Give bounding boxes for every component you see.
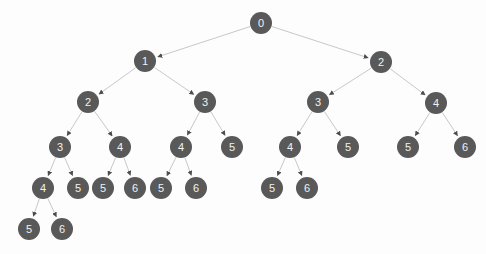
- tree-node[interactable]: 5: [18, 218, 40, 240]
- tree-node-label: 6: [462, 141, 468, 152]
- tree-node-label: 3: [202, 96, 208, 107]
- tree-node-label: 5: [100, 182, 106, 193]
- tree-node-label: 0: [258, 17, 264, 28]
- tree-node-label: 6: [304, 182, 310, 193]
- tree-node-label: 4: [287, 141, 293, 152]
- tree-node[interactable]: 3: [49, 136, 71, 158]
- tree-node[interactable]: 4: [32, 177, 54, 199]
- tree-node-label: 3: [315, 96, 321, 107]
- tree-node[interactable]: 3: [194, 91, 216, 113]
- tree-node[interactable]: 5: [221, 136, 243, 158]
- tree-node[interactable]: 4: [279, 136, 301, 158]
- tree-diagram-canvas: 0122334344545564556565656: [0, 0, 486, 254]
- tree-node[interactable]: 6: [296, 177, 318, 199]
- tree-node[interactable]: 4: [109, 136, 131, 158]
- tree-node-layer: 0122334344545564556565656: [0, 0, 486, 254]
- tree-node[interactable]: 3: [307, 91, 329, 113]
- tree-node[interactable]: 5: [92, 177, 114, 199]
- tree-node[interactable]: 4: [170, 136, 192, 158]
- tree-node-label: 1: [142, 55, 148, 66]
- tree-node-label: 5: [26, 223, 32, 234]
- tree-node[interactable]: 6: [124, 177, 146, 199]
- tree-node[interactable]: 2: [77, 91, 99, 113]
- tree-node-label: 6: [59, 223, 65, 234]
- tree-node[interactable]: 6: [185, 177, 207, 199]
- tree-node[interactable]: 1: [134, 50, 156, 72]
- tree-node-label: 4: [178, 141, 184, 152]
- tree-node[interactable]: 5: [261, 177, 283, 199]
- tree-node[interactable]: 5: [397, 136, 419, 158]
- tree-node[interactable]: 5: [150, 177, 172, 199]
- tree-node[interactable]: 2: [370, 51, 392, 73]
- tree-node-label: 5: [158, 182, 164, 193]
- tree-node-label: 2: [85, 96, 91, 107]
- tree-node[interactable]: 5: [337, 136, 359, 158]
- tree-node[interactable]: 4: [425, 92, 447, 114]
- tree-node[interactable]: 6: [51, 218, 73, 240]
- tree-node-label: 6: [132, 182, 138, 193]
- tree-node-label: 5: [229, 141, 235, 152]
- tree-node-label: 2: [378, 56, 384, 67]
- tree-node-label: 3: [57, 141, 63, 152]
- tree-node[interactable]: 0: [250, 12, 272, 34]
- tree-node[interactable]: 6: [454, 136, 476, 158]
- tree-node[interactable]: 5: [67, 177, 89, 199]
- tree-node-label: 5: [75, 182, 81, 193]
- tree-node-label: 5: [269, 182, 275, 193]
- tree-node-label: 4: [117, 141, 123, 152]
- tree-node-label: 4: [433, 97, 439, 108]
- tree-node-label: 4: [40, 182, 46, 193]
- tree-node-label: 5: [405, 141, 411, 152]
- tree-node-label: 5: [345, 141, 351, 152]
- tree-node-label: 6: [193, 182, 199, 193]
